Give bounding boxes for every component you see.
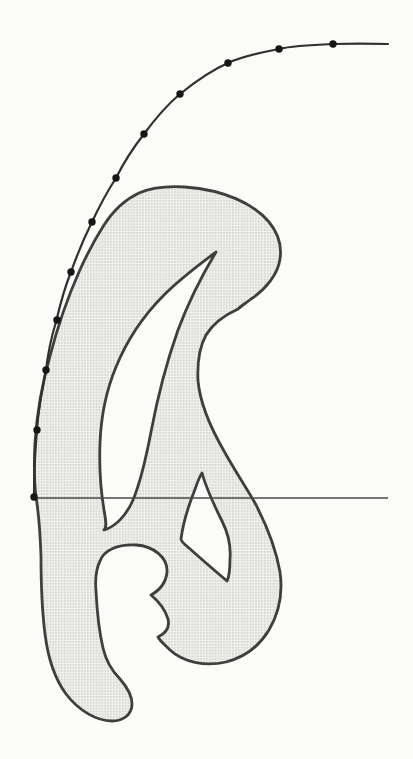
data-point — [140, 130, 147, 137]
data-point — [224, 59, 231, 66]
data-point — [88, 218, 95, 225]
data-point — [67, 268, 74, 275]
data-point — [33, 426, 40, 433]
data-point — [30, 493, 37, 500]
data-point — [275, 45, 282, 52]
data-point — [42, 366, 49, 373]
data-point — [176, 90, 183, 97]
data-point — [329, 40, 336, 47]
figure — [0, 0, 413, 759]
data-point — [53, 316, 60, 323]
data-point — [112, 174, 119, 181]
figure-canvas — [0, 0, 413, 759]
